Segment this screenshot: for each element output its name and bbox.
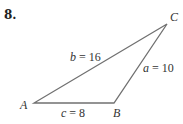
problem-number: 8. [4,8,17,22]
vertex-label-c: C [170,10,179,24]
side-label-b: b = 16 [70,50,101,64]
triangle-diagram: 8. C A B b = 16 a = 10 c = 8 [0,0,183,124]
side-value-c: = 8 [66,106,85,120]
side-label-c: c = 8 [61,106,85,120]
vertex-label-b: B [113,106,121,120]
side-label-a: a = 10 [143,61,174,75]
side-value-b: = 16 [76,50,101,64]
side-value-a: = 10 [149,61,174,75]
vertex-label-a: A [19,98,28,112]
